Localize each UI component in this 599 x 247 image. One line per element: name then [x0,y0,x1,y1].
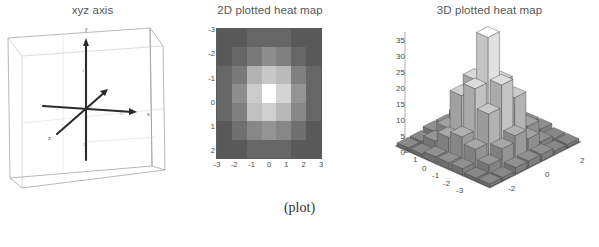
heat2d-xtick: -3 [214,160,221,169]
heat2d-cell [217,103,232,121]
heat2d-x-axis: -3 -2 -1 0 1 2 3 [217,160,321,174]
heat2d-cell [291,140,306,158]
xyz-tick-y-pos: 1 [82,68,85,73]
heat2d-cell [291,84,306,102]
heat3d-ztick: 20 [396,84,405,93]
heat2d-xtick: 0 [267,160,271,169]
heat2d-ytick: -3 [208,26,215,34]
heat2d-cell [262,121,277,139]
heat2d-xtick: -1 [248,160,255,169]
heat3d-ytick: 2 [580,156,584,165]
heat2d-cell [262,103,277,121]
heat2d-cell [262,140,277,158]
heat3d-ztick: 35 [396,36,405,45]
xyz-axis-svg: y x z 1 -1 -1 1 0 [0,20,185,188]
heat2d-cell [306,121,321,139]
heat3d-ztick: 25 [396,68,405,77]
xyz-label-z: z [48,135,51,141]
heat2d-cell [276,121,291,139]
heat3d-xtick: 1 [413,155,417,164]
heat2d-xtick: 3 [319,160,323,169]
panel-xyz-axis: xyz axis [0,0,185,190]
heat2d-y-axis: -3 -2 -1 0 1 2 [198,29,215,158]
heat2d-cell [262,29,277,47]
heat2d-xtick: 1 [284,160,288,169]
heat3d-xtick: 2 [404,146,408,155]
heat3d-ytick: -2 [508,184,515,193]
heat2d-cell [247,121,262,139]
xyz-label-y: y [85,26,88,32]
heat2d-cell [262,66,277,84]
heat2d-cell [217,84,232,102]
heat2d-cell [247,140,262,158]
heat2d-cell [276,84,291,102]
heat2d-cell [247,103,262,121]
heat2d-cell [291,103,306,121]
heat3d-ztick: 30 [396,52,405,61]
heat2d-cell [306,47,321,65]
heat2d-ytick: 1 [211,123,215,131]
panel-3d-heat-map: 3D plotted heat map 35 30 25 20 15 10 5 … [380,0,599,190]
heat2d-cell [232,103,247,121]
heat2d-cell [291,66,306,84]
heat2d-cell [247,29,262,47]
figure-caption: (plot) [0,200,599,216]
panel-heat3d-title: 3D plotted heat map [380,4,599,16]
xyz-axis-plot: y x z 1 -1 -1 1 0 [0,20,185,188]
heat2d-cell [232,121,247,139]
heat2d-xtick: -2 [231,160,238,169]
heat2d-cell [232,47,247,65]
heat2d-xtick: 2 [302,160,306,169]
heat2d-cell [291,121,306,139]
heat3d-xtick: 0 [422,164,426,173]
heat2d-cell [247,66,262,84]
heat2d-cell [262,84,277,102]
heat3d-bars-svg [380,18,599,190]
heat2d-ytick: 0 [211,99,215,107]
heat2d-ytick: -2 [208,50,215,58]
heat2d-cell [262,47,277,65]
heat2d-cell [247,47,262,65]
heat2d-cell [276,66,291,84]
panel-2d-heat-map: 2D plotted heat map -3 -2 -1 0 1 2 -3 -2… [190,0,350,190]
heat2d-cell [306,103,321,121]
heat2d-cell [232,66,247,84]
heat2d-cell [232,84,247,102]
heat2d-cell [217,47,232,65]
heat2d-cell [247,84,262,102]
heat3d-ztick: 15 [396,100,405,109]
xyz-tick-origin: 0 [90,104,93,109]
heat2d-cell [276,29,291,47]
heat2d-cell [306,140,321,158]
heat2d-cell [276,140,291,158]
heat3d-ztick: 5 [401,132,405,141]
panel-xyz-title: xyz axis [0,4,185,16]
heat2d-grid [217,29,321,158]
figure-plot: xyz axis [0,0,599,247]
heat2d-cell [232,29,247,47]
heat2d-cell [217,140,232,158]
heat3d-xtick: -3 [456,186,463,195]
heat2d-cell [217,121,232,139]
heat2d-cell [306,66,321,84]
heat3d-z-axis: 35 30 25 20 15 10 5 0 [383,40,405,152]
heat3d-xtick: -2 [443,179,450,188]
heat3d-ztick: 10 [396,116,405,125]
xyz-label-x: x [147,111,150,117]
heat2d-cell [276,103,291,121]
heat2d-cell [232,140,247,158]
heat2d-cell [291,29,306,47]
heat2d-cell [217,29,232,47]
heat2d-cell [291,47,306,65]
heat2d-cell [306,84,321,102]
heat2d-cell [306,29,321,47]
panel-heat2d-title: 2D plotted heat map [190,4,350,16]
heat3d-xtick: -1 [432,171,439,180]
heat3d-ytick: 0 [545,170,549,179]
heat2d-cell [276,47,291,65]
heat2d-cell [217,66,232,84]
heat2d-ytick: 2 [211,147,215,155]
heat3d-plot: 35 30 25 20 15 10 5 0 2 1 0 -1 -2 -3 -2 … [380,18,599,190]
heat2d-ytick: -1 [208,75,215,83]
